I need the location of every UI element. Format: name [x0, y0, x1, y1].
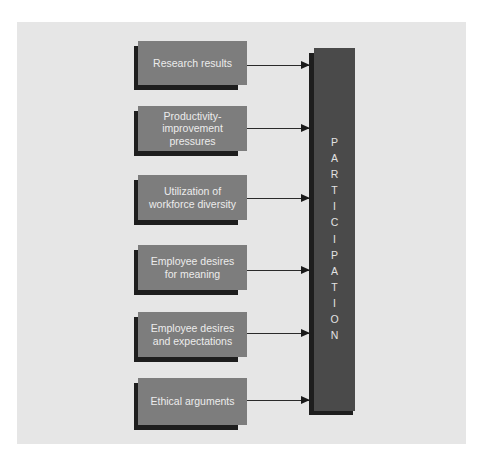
box-label: Employee desires for meaning [138, 245, 247, 290]
participation-label: P A R T I C I P A T I O N [314, 134, 355, 343]
bar-letter: I [333, 295, 336, 311]
bar-letter: A [331, 263, 338, 279]
arrow-research-results [247, 65, 309, 66]
bar-letter: O [330, 311, 338, 327]
participation-bar: P A R T I C I P A T I O N [314, 48, 355, 411]
box-label: Employee desires and expectations [138, 312, 247, 357]
box-label: Productivity- improvement pressures [138, 106, 247, 151]
arrow-productivity-pressures [247, 128, 309, 129]
bar-letter: N [331, 327, 339, 343]
arrow-desires-meaning [247, 270, 309, 271]
bar-letter: I [333, 231, 336, 247]
bar-letter: C [331, 214, 339, 230]
box-label: Research results [138, 41, 247, 85]
box-label: Ethical arguments [138, 378, 247, 425]
arrow-desires-expectations [247, 333, 309, 334]
bar-letter: I [333, 198, 336, 214]
bar-letter: P [331, 134, 338, 150]
bar-letter: T [331, 182, 337, 198]
arrow-ethical-arguments [247, 400, 309, 401]
bar-letter: A [331, 150, 338, 166]
bar-letter: P [331, 247, 338, 263]
bar-letter: T [331, 279, 337, 295]
bar-letter: R [331, 166, 339, 182]
arrow-workforce-diversity [247, 198, 309, 199]
box-label: Utilization of workforce diversity [138, 175, 247, 220]
